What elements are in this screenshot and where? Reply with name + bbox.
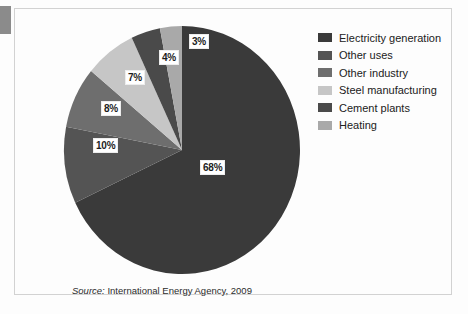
legend-item[interactable]: Steel manufacturing (318, 82, 463, 100)
source-label: Source: (72, 285, 105, 296)
source-note: Source: International Energy Agency, 200… (72, 285, 252, 296)
legend-swatch-heating (318, 121, 332, 130)
chart-legend: Electricity generationOther usesOther in… (318, 29, 463, 134)
pie-label-steel-manufacturing: 7% (125, 70, 145, 85)
legend-item-label: Cement plants (339, 102, 410, 114)
pie-label-other-industry: 8% (101, 101, 121, 116)
legend-swatch-electricity-generation (318, 33, 332, 42)
legend-item[interactable]: Heating (318, 117, 463, 135)
legend-item-label: Other uses (339, 49, 393, 61)
legend-swatch-steel-manufacturing (318, 86, 332, 95)
legend-item[interactable]: Other uses (318, 47, 463, 65)
legend-item-label: Electricity generation (339, 32, 441, 44)
pie-label-electricity-generation: 68% (200, 160, 225, 175)
legend-item-label: Other industry (339, 67, 408, 79)
source-value: International Energy Agency, 2009 (107, 285, 252, 296)
legend-item-label: Steel manufacturing (339, 84, 437, 96)
figure-frame: 68% 10% 8% 7% 4% 3% Electricity generati… (14, 8, 452, 295)
legend-swatch-other-uses (318, 51, 332, 60)
page-edge-marker (0, 6, 11, 34)
pie-label-heating: 3% (189, 34, 209, 49)
pie-label-other-uses: 10% (93, 138, 118, 153)
legend-item-label: Heating (339, 119, 377, 131)
legend-swatch-cement-plants (318, 103, 332, 112)
pie-label-cement-plants: 4% (159, 50, 179, 65)
legend-item[interactable]: Electricity generation (318, 29, 463, 47)
legend-item[interactable]: Cement plants (318, 99, 463, 117)
figure-page: 68% 10% 8% 7% 4% 3% Electricity generati… (0, 0, 468, 314)
legend-item[interactable]: Other industry (318, 64, 463, 82)
legend-swatch-other-industry (318, 68, 332, 77)
pie-chart: 68% 10% 8% 7% 4% 3% (63, 25, 301, 275)
